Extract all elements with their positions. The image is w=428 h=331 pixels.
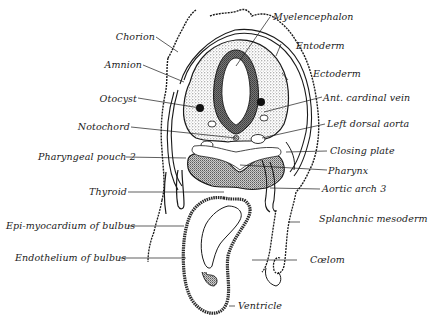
otocyst-right	[257, 98, 265, 106]
endothelium-of-bulbus	[201, 206, 241, 268]
label-ant-cardinal-vein: Ant. cardinal vein	[323, 92, 410, 103]
label-closing-plate: Closing plate	[330, 145, 395, 156]
ant-cardinal-vein-right	[260, 115, 268, 121]
label-entoderm: Entoderm	[296, 40, 345, 51]
label-epi-myocardium-of-bulbus: Epi-myocardium of bulbus	[6, 220, 135, 231]
coelom-loop	[265, 268, 280, 286]
label-endothelium-of-bulbus: Endothelium of bulbus	[15, 252, 126, 263]
label-pharyngeal-pouch-2: Pharyngeal pouch 2	[38, 151, 136, 162]
label-otocyst: Otocyst	[90, 93, 137, 104]
label-aortic-arch-3: Aortic arch 3	[322, 183, 386, 194]
ant-cardinal-vein-left	[208, 121, 216, 127]
endothelium-lower	[202, 272, 217, 286]
label-thyroid: Thyroid	[80, 186, 127, 197]
label-notochord: Notochord	[70, 121, 130, 132]
label-coelom: Cœlom	[310, 254, 345, 265]
left-dorsal-aorta	[251, 135, 265, 144]
label-chorion: Chorion	[115, 31, 155, 42]
closing-plate	[286, 142, 295, 170]
splanchnic-mesoderm	[262, 192, 296, 273]
amnion-lower-left	[148, 200, 162, 262]
label-ectoderm: Ectoderm	[313, 68, 361, 79]
label-left-dorsal-aorta: Left dorsal aorta	[327, 118, 409, 129]
label-splanchnic-mesoderm: Splanchnic mesoderm	[319, 213, 428, 224]
label-amnion: Amnion	[98, 59, 142, 70]
label-pharynx: Pharynx	[328, 165, 368, 176]
epi-myocardium-of-bulbus	[183, 198, 250, 314]
label-ventricle: Ventricle	[238, 300, 282, 311]
label-myelencephalon: Myelencephalon	[273, 11, 354, 22]
